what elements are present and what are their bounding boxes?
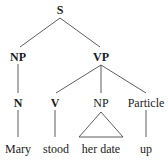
node-s: S xyxy=(57,3,64,17)
triangle-np-her-date xyxy=(79,112,123,137)
edge-s-vp xyxy=(60,18,100,47)
syntax-tree: S NP VP N V NP Particle Mary stood her d… xyxy=(0,0,168,160)
node-n: N xyxy=(14,96,23,110)
leaf-mary: Mary xyxy=(5,142,31,156)
node-particle: Particle xyxy=(128,96,165,110)
leaf-up: up xyxy=(140,142,152,156)
node-v: V xyxy=(51,96,60,110)
node-np-object: NP xyxy=(93,96,109,110)
edge-vp-particle xyxy=(101,65,146,93)
leaf-her-date: her date xyxy=(82,142,120,156)
edge-vp-v xyxy=(56,65,101,93)
edge-s-np xyxy=(20,18,60,47)
node-vp: VP xyxy=(93,50,109,64)
node-np-subject: NP xyxy=(10,50,26,64)
leaf-stood: stood xyxy=(43,142,69,156)
